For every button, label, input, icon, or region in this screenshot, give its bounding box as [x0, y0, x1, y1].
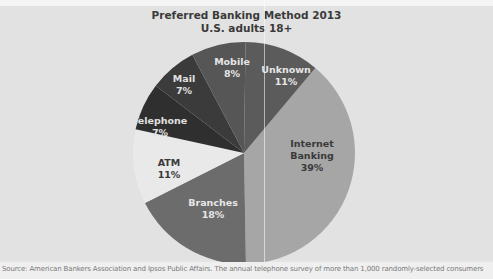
source-caption-text: Source: American Bankers Association and…	[2, 265, 483, 273]
slice-label-mail: Mail7%	[173, 73, 195, 96]
source-caption: Source: American Bankers Association and…	[0, 262, 493, 279]
pie-chart: InternetBanking39%Branches18%ATM11%Telep…	[0, 0, 493, 279]
scan-line	[264, 0, 265, 262]
slice-label-atm: ATM11%	[158, 157, 181, 180]
